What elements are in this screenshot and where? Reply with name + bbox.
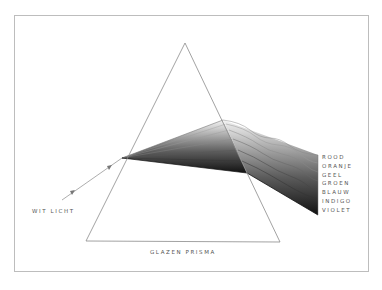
spectrum-label-violet: VIOLET: [322, 208, 353, 217]
prism-label: GLAZEN PRISMA: [150, 250, 216, 256]
prism-diagram: [0, 0, 382, 290]
arrowhead-icon: [107, 165, 112, 170]
white-light-ray: [62, 158, 122, 200]
incident-light-label: WIT LICHT: [32, 209, 75, 215]
spectrum-legend: ROOD ORANJE GEEL GROEN BLAUW INDIGO VIOL…: [322, 155, 353, 217]
